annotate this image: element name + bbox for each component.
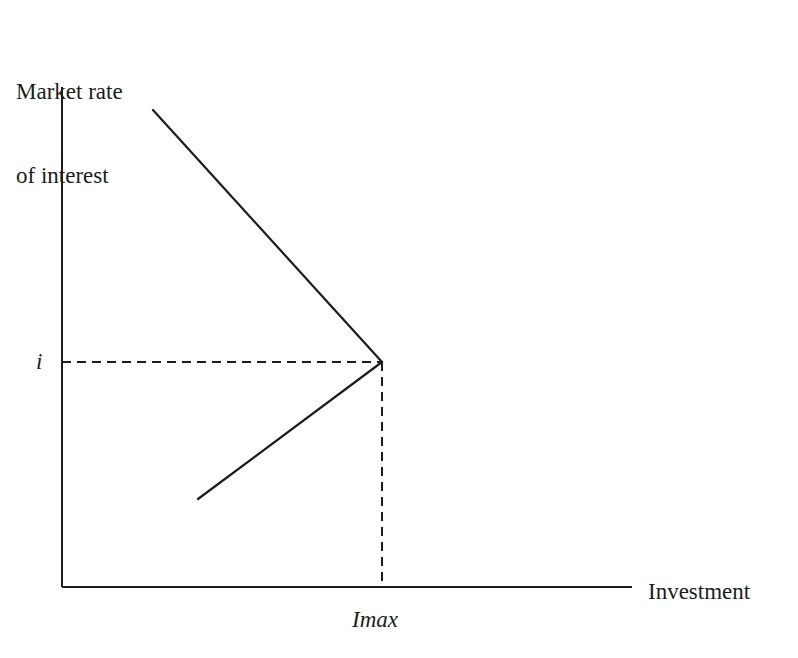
y-axis-title-line-2: of interest [16, 162, 123, 190]
x-axis-title: Investment [648, 578, 750, 606]
x-axis-tick-label-imax: Imax [352, 606, 398, 634]
y-axis-tick-label-i: i [36, 348, 42, 376]
downward-sloping-curve [153, 110, 382, 362]
investment-interest-diagram: Market rate of interest Investment i Ima… [0, 0, 798, 658]
upward-sloping-curve [198, 362, 382, 499]
y-axis-title-line-1: Market rate [16, 78, 123, 106]
y-axis-title: Market rate of interest [16, 22, 123, 246]
